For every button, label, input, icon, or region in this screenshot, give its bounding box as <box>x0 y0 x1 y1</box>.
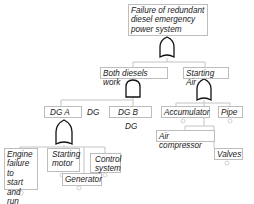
generator-box: Generator <box>62 173 102 186</box>
starting-air-box: Starting Air <box>183 67 229 79</box>
dg-a-box: DG A <box>44 106 82 118</box>
control-system-box: Control system <box>90 153 121 173</box>
or-gate-starting-air-icon <box>197 79 211 100</box>
dg-b-tag: DG <box>125 122 137 131</box>
or-gate-dg-a-icon <box>56 120 72 144</box>
engine-failure-box: Engine failure to start and run <box>4 148 38 190</box>
starting-motor-box: Starting motor <box>47 148 80 172</box>
dg-b-box: DG B <box>109 106 152 118</box>
fault-tree-canvas <box>0 0 254 204</box>
valves-box: Valves <box>214 148 243 160</box>
or-gate-top-icon <box>160 37 174 57</box>
accumulator-box: Accumulator <box>161 106 210 118</box>
dg-a-tag: DG <box>87 108 99 117</box>
air-compressor-box: Air compressor <box>156 130 215 142</box>
and-gate-both-diesels-icon <box>126 80 140 97</box>
pipe-box: Pipe <box>218 106 243 118</box>
both-diesels-box: Both diesels work <box>100 67 168 79</box>
top-event-box: Failure of redundant diesel emergency po… <box>128 4 208 36</box>
